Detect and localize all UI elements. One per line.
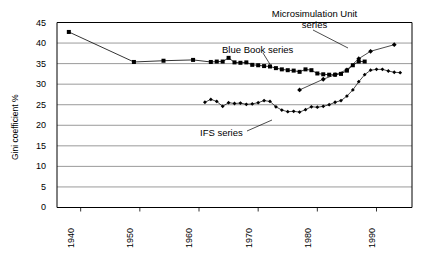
series-line: [300, 45, 395, 90]
data-point: [209, 60, 213, 64]
data-point: [221, 60, 225, 64]
data-point: [280, 108, 284, 112]
data-point: [262, 99, 266, 103]
data-point: [315, 105, 319, 109]
data-point: [280, 67, 284, 71]
data-point: [238, 61, 242, 65]
data-point: [368, 49, 373, 54]
data-point: [315, 71, 319, 75]
plot-area: [0, 0, 431, 266]
data-point: [286, 68, 290, 72]
data-point: [227, 56, 231, 60]
series-microsimulation-unit-series: [297, 42, 396, 92]
data-point: [274, 66, 278, 70]
data-point: [297, 88, 302, 93]
data-point: [191, 58, 195, 62]
data-point: [321, 72, 325, 76]
data-point: [381, 67, 385, 71]
data-point: [386, 69, 390, 73]
data-point: [333, 100, 337, 104]
data-point: [309, 68, 313, 72]
series-ifs-series: [203, 67, 402, 114]
data-point: [398, 71, 402, 75]
series-blue-book-series: [67, 30, 367, 77]
data-point: [298, 70, 302, 74]
data-point: [292, 69, 296, 73]
data-point: [268, 64, 272, 68]
data-point: [244, 102, 248, 106]
series-layer: [67, 30, 402, 114]
data-point: [209, 97, 213, 101]
data-point: [304, 67, 308, 71]
gini-coefficient-chart: Gini coefficient % 45 40 35 30 25 20 15 …: [0, 0, 431, 266]
data-point: [250, 102, 254, 106]
series-line: [69, 32, 365, 75]
data-point: [132, 60, 136, 64]
data-point: [304, 108, 308, 112]
data-point: [67, 30, 71, 34]
data-point: [227, 101, 231, 105]
data-point: [262, 64, 266, 68]
data-point: [292, 109, 296, 113]
leader-blue-book: [263, 53, 271, 66]
data-point: [215, 60, 219, 64]
leader-microsimulation: [313, 30, 348, 48]
data-point: [310, 105, 314, 109]
data-point: [375, 67, 379, 71]
data-point: [392, 70, 396, 74]
data-point: [298, 110, 302, 114]
data-point: [286, 110, 290, 114]
series-line: [205, 69, 400, 112]
data-point: [244, 60, 248, 64]
data-point: [162, 59, 166, 63]
annotation-leader-lines: [247, 30, 348, 131]
data-point: [233, 60, 237, 64]
data-point: [256, 101, 260, 105]
data-point: [203, 100, 207, 104]
data-point: [363, 60, 367, 64]
data-point: [256, 63, 260, 67]
data-point: [250, 63, 254, 67]
data-point: [327, 103, 331, 107]
data-point: [321, 77, 326, 82]
